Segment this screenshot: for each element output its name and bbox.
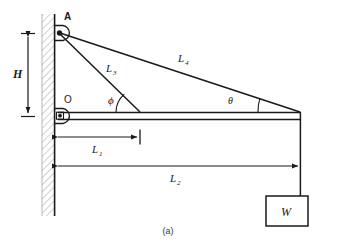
pin-o-hinge-dot (58, 114, 62, 118)
wall-support (42, 14, 55, 216)
label-l2-base: L (169, 172, 176, 184)
label-l1-base: L (91, 143, 98, 155)
label-l4-base: L (177, 52, 184, 64)
label-l3-subscript: 3 (112, 69, 117, 77)
dimension-h (21, 34, 35, 117)
label-l1-subscript: 1 (99, 150, 103, 158)
wall-hatching (42, 14, 55, 216)
label-weight-w: W (281, 205, 292, 219)
pin-o-bracket (55, 109, 69, 124)
label-l3: L 3 (105, 62, 117, 77)
angle-arc-phi (116, 94, 124, 112)
label-l2-subscript: 2 (177, 179, 181, 187)
label-l2: L 2 (169, 172, 181, 187)
label-angle-theta: θ (228, 95, 233, 106)
angle-arc-theta (258, 98, 260, 112)
pin-support-o (55, 109, 69, 124)
label-l1: L 1 (91, 143, 103, 158)
beam-member (58, 113, 301, 120)
dimension-l1 (58, 130, 140, 145)
label-l4: L 4 (177, 52, 189, 67)
label-l4-subscript: 4 (185, 59, 189, 67)
label-height-h: H (12, 67, 23, 81)
diagram-canvas: A O H ϕ θ W L 1 L 2 L 3 L 4 (a) (0, 0, 337, 244)
label-point-o: O (64, 94, 72, 105)
label-l3-base: L (105, 62, 112, 74)
figure-container: A O H ϕ θ W L 1 L 2 L 3 L 4 (a) (0, 0, 337, 244)
figure-caption: (a) (163, 226, 174, 236)
label-angle-phi: ϕ (108, 94, 114, 106)
member-l4 (62, 34, 301, 113)
label-point-a: A (64, 11, 71, 22)
